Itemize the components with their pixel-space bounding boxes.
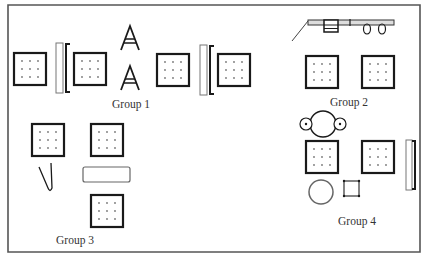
classroom-layout-diagram: Group 1 Group 2 Group 3 Group 4 (0, 0, 424, 262)
table-square-icon (91, 124, 123, 156)
group-4-label: Group 4 (338, 215, 376, 227)
round-rug-icon (309, 180, 333, 204)
table-square-icon (91, 195, 123, 227)
easel-icon (121, 26, 139, 50)
table-square-icon (362, 56, 394, 88)
wall-rail-icon (292, 19, 394, 41)
bench-icon (200, 45, 214, 95)
group-1-furniture (14, 26, 250, 95)
table-square-icon (218, 54, 250, 86)
group-3-furniture (32, 124, 130, 227)
table-square-icon (306, 141, 338, 173)
round-table-with-stools-icon (300, 111, 346, 137)
table-square-icon (157, 54, 189, 86)
rectangular-table-icon (83, 167, 130, 182)
table-square-icon (74, 53, 106, 85)
hook-icon (39, 163, 52, 191)
table-square-icon (14, 53, 46, 85)
table-square-icon (362, 141, 394, 173)
group-3-label: Group 3 (56, 234, 94, 246)
group-1-label: Group 1 (112, 98, 150, 110)
group-2-label: Group 2 (330, 96, 368, 108)
group-4-furniture (306, 140, 415, 204)
table-square-icon (306, 56, 338, 88)
bench-icon (56, 43, 70, 93)
group-2-furniture (292, 19, 394, 137)
easel-icon (121, 66, 139, 90)
small-stool-icon (343, 180, 360, 197)
table-square-icon (32, 124, 64, 156)
bench-icon (406, 140, 415, 190)
